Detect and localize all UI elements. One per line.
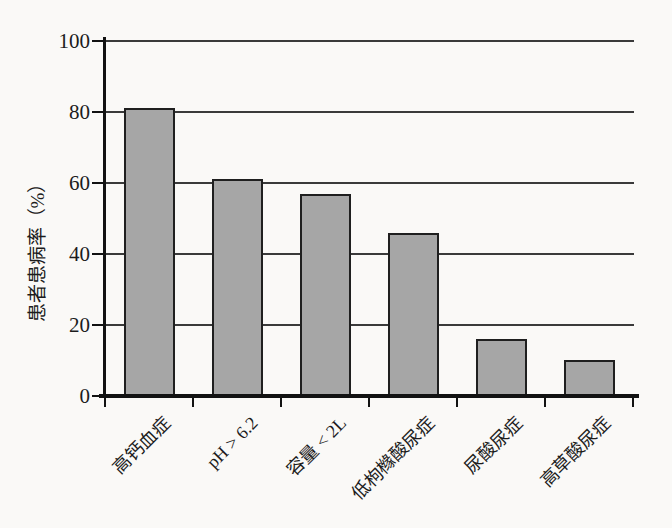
gridline-100 xyxy=(105,40,634,42)
bar-1 xyxy=(212,179,263,396)
y-axis-tick-60 xyxy=(92,182,106,184)
y-tick-label-100: 100 xyxy=(28,30,90,52)
x-category-label-5: 高草酸尿症 xyxy=(535,412,616,493)
bar-2 xyxy=(300,194,351,396)
y-axis-tick-80 xyxy=(92,111,106,113)
y-tick-label-40: 40 xyxy=(28,243,90,265)
bar-0 xyxy=(124,108,175,396)
bar-3 xyxy=(388,233,439,396)
y-axis-line xyxy=(103,37,106,398)
x-category-label-3: 低枸橼酸尿症 xyxy=(346,412,439,505)
x-category-label-0: 高钙血症 xyxy=(108,412,176,480)
x-axis-tick-3 xyxy=(368,398,370,407)
y-tick-label-20: 20 xyxy=(28,314,90,336)
y-axis-tick-0 xyxy=(92,395,106,397)
y-tick-label-0: 0 xyxy=(28,385,90,407)
gridline-60 xyxy=(105,182,634,184)
x-axis-tick-2 xyxy=(280,398,282,407)
gridline-80 xyxy=(105,111,634,113)
bar-5 xyxy=(564,360,615,396)
bar-4 xyxy=(476,339,527,396)
gridline-20 xyxy=(105,324,634,326)
gridline-40 xyxy=(105,253,634,255)
x-axis-tick-6 xyxy=(632,398,634,407)
y-tick-label-60: 60 xyxy=(28,172,90,194)
bar-chart-figure: 患者患病率（%） 020406080100 高钙血症pH > 6.2容量 < 2… xyxy=(0,0,672,528)
y-axis-tick-40 xyxy=(92,253,106,255)
x-axis-tick-1 xyxy=(192,398,194,407)
y-axis-tick-100 xyxy=(92,40,106,42)
x-category-label-2: 容量 < 2L xyxy=(281,412,351,482)
x-axis-tick-4 xyxy=(456,398,458,407)
y-axis-tick-20 xyxy=(92,324,106,326)
x-axis-tick-0 xyxy=(104,398,106,407)
x-category-label-1: pH > 6.2 xyxy=(202,412,264,474)
y-tick-label-80: 80 xyxy=(28,101,90,123)
x-category-label-4: 尿酸尿症 xyxy=(460,412,528,480)
x-axis-tick-5 xyxy=(544,398,546,407)
